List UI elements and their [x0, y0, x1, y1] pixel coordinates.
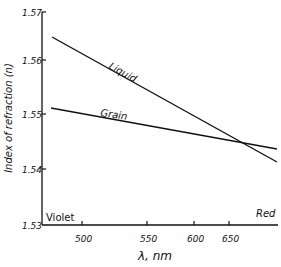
x-tick-600: 600 — [187, 234, 204, 244]
liquid-label: Liquid — [107, 60, 139, 85]
y-tick-1.56: 1.56 — [22, 56, 42, 66]
y-tick-1.54: 1.54 — [22, 165, 42, 175]
y-tick-1.53: 1.53 — [22, 221, 42, 231]
x-axis-label: λ, nm — [137, 249, 172, 263]
grain-line — [51, 108, 277, 149]
x-tick-550: 550 — [140, 234, 157, 244]
y-tick-1.57: 1.57 — [22, 8, 42, 18]
violet-label: Violet — [46, 212, 74, 223]
x-tick-500: 500 — [75, 234, 92, 244]
y-tick-1.55: 1.55 — [22, 110, 42, 120]
grain-label: Grain — [100, 107, 128, 122]
red-label: Red — [256, 208, 276, 219]
refraction-chart: 1.57 1.56 1.55 1.54 1.53 500 550 600 650… — [0, 0, 281, 267]
x-tick-650: 650 — [222, 234, 239, 244]
y-axis-label: Index of refraction (n) — [3, 63, 14, 173]
chart-svg: 1.57 1.56 1.55 1.54 1.53 500 550 600 650… — [0, 0, 281, 267]
